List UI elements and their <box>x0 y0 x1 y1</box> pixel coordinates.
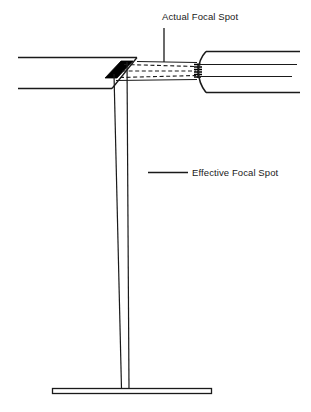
beam-channel-bottom-rail <box>116 80 197 81</box>
right-housing-wall <box>199 52 301 93</box>
beam-channel-top-rail <box>137 62 197 63</box>
beam-dash-line-lower <box>120 76 196 78</box>
focal-spot-diagram: Actual Focal Spot Effective Focal Spot <box>0 0 311 412</box>
actual-focal-spot-label: Actual Focal Spot <box>162 11 238 22</box>
anode-target-face <box>105 61 133 78</box>
projected-beam-left-edge <box>114 74 122 389</box>
image-receptor-base <box>53 389 212 394</box>
anode-target-parallelogram <box>105 61 133 78</box>
projected-beam-column <box>114 62 129 389</box>
image-receptor-plate <box>53 389 212 394</box>
effective-focal-spot-label: Effective Focal Spot <box>192 167 278 178</box>
beam-dash-line-upper <box>124 65 196 67</box>
projected-beam-right-edge <box>127 62 129 389</box>
dashed-electron-beam <box>120 65 196 78</box>
diagram-canvas <box>0 0 311 412</box>
